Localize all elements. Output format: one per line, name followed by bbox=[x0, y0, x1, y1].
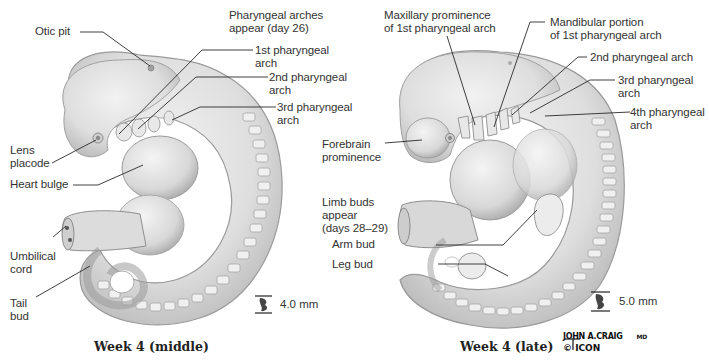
artist-signature: JOHN A.CRAIGMD bbox=[563, 332, 647, 341]
scale-label-right: 5.0 mm bbox=[619, 295, 657, 307]
label-lens-placode: Lens placode bbox=[10, 144, 50, 170]
label-3rd-pharyngeal-arch-late: 3rd pharyngeal arch bbox=[618, 74, 693, 100]
label-forebrain-prominence: Forebrain prominence bbox=[322, 138, 381, 164]
label-limb-buds-appear: Limb buds appear (days 28–29) bbox=[322, 196, 388, 235]
label-heart-bulge: Heart bulge bbox=[10, 178, 68, 191]
label-otic-pit: Otic pit bbox=[35, 25, 70, 38]
caption-week4-middle: Week 4 (middle) bbox=[94, 339, 209, 354]
label-tail-bud: Tail bud bbox=[10, 297, 29, 323]
label-umbilical-cord: Umbilical cord bbox=[10, 250, 56, 276]
label-arm-bud: Arm bud bbox=[332, 238, 375, 251]
scale-bar-right bbox=[591, 292, 610, 311]
label-3rd-pharyngeal-arch: 3rd pharyngeal arch bbox=[277, 101, 352, 127]
label-leg-bud: Leg bud bbox=[332, 258, 373, 271]
label-mandibular-portion: Mandibular portion of 1st pharyngeal arc… bbox=[550, 16, 662, 42]
embryo-week4-late bbox=[398, 51, 624, 328]
scale-label-left: 4.0 mm bbox=[280, 298, 318, 310]
embryo-figure: Otic pit Pharyngeal arches appear (day 2… bbox=[0, 0, 709, 363]
embryo-week4-middle bbox=[62, 52, 282, 325]
scale-bar-left bbox=[255, 296, 272, 313]
label-1st-pharyngeal-arch: 1st pharyngeal arch bbox=[255, 44, 329, 70]
caption-week4-late: Week 4 (late) bbox=[460, 339, 553, 354]
copyright-logo: © ICON bbox=[563, 343, 600, 353]
label-4th-pharyngeal-arch: 4th pharyngeal arch bbox=[630, 106, 705, 132]
label-2nd-pharyngeal-arch: 2nd pharyngeal arch bbox=[269, 71, 347, 97]
label-pharyngeal-arches-appear: Pharyngeal arches appear (day 26) bbox=[229, 9, 323, 35]
label-maxillary-prominence: Maxillary prominence of 1st pharyngeal a… bbox=[384, 9, 496, 35]
label-2nd-pharyngeal-arch-late: 2nd pharyngeal arch bbox=[590, 51, 693, 64]
